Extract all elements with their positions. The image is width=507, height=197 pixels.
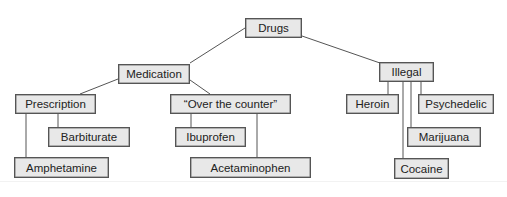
node-label: Medication [126, 68, 182, 80]
node-prescription: Prescription [15, 94, 96, 114]
node-amphetamine: Amphetamine [14, 157, 109, 178]
node-label: Barbiturate [61, 131, 117, 143]
node-label: Amphetamine [26, 162, 97, 174]
node-marijuana: Marijuana [407, 127, 481, 147]
node-illegal: Illegal [379, 62, 434, 82]
node-label: “Over the counter” [184, 98, 277, 110]
node-label: Illegal [391, 66, 421, 78]
node-psychedelic: Psychedelic [418, 94, 494, 114]
edge-medication-otc [190, 80, 210, 94]
node-label: Acetaminophen [211, 162, 291, 174]
node-label: Prescription [25, 98, 86, 110]
node-medication: Medication [118, 64, 190, 84]
node-label: Marijuana [419, 131, 470, 143]
node-acetaminophen: Acetaminophen [190, 157, 311, 178]
edge-drugs-illegal [302, 36, 380, 63]
node-ibuprofen: Ibuprofen [175, 127, 246, 147]
edge-drugs-medication [190, 28, 245, 63]
node-cocaine: Cocaine [394, 158, 449, 179]
node-over-the-counter: “Over the counter” [170, 94, 291, 114]
node-label: Drugs [258, 22, 289, 34]
node-barbiturate: Barbiturate [48, 127, 130, 147]
node-label: Ibuprofen [186, 131, 235, 143]
edge-medication-prescription [80, 79, 118, 94]
faint-baseline-divider [0, 181, 507, 182]
node-label: Heroin [356, 98, 390, 110]
node-heroin: Heroin [346, 94, 399, 114]
node-label: Cocaine [400, 163, 442, 175]
node-drugs: Drugs [245, 18, 302, 38]
node-label: Psychedelic [425, 98, 486, 110]
drug-classification-tree: Drugs Medication Illegal Prescription “O… [0, 0, 507, 197]
